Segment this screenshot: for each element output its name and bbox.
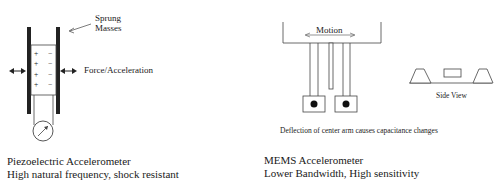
minus-sign: − <box>48 60 52 68</box>
force-label: Force/Acceleration <box>84 66 153 75</box>
plus-sign: + <box>34 60 38 68</box>
piezo-title: Piezoelectric Accelerometer <box>7 156 131 167</box>
sprung-label-line1: Sprung <box>95 14 121 23</box>
piezo-subtitle: High natural frequency, shock resistant <box>7 169 179 180</box>
minus-sign: − <box>48 50 52 58</box>
plus-sign: + <box>34 81 38 89</box>
minus-sign: − <box>48 81 52 89</box>
side-view-label: Side View <box>436 92 467 100</box>
minus-sign: − <box>48 71 52 79</box>
pointer-arrow-icon <box>69 24 91 33</box>
gauge-icon <box>33 121 53 141</box>
sprung-label-line2: Masses <box>95 24 122 33</box>
left-plate <box>27 27 31 114</box>
plus-sign: + <box>34 71 38 79</box>
mems-title: MEMS Accelerometer <box>264 155 363 166</box>
right-plate <box>56 27 60 114</box>
deflection-caption: Deflection of center arm causes capacita… <box>280 127 438 135</box>
center-arm <box>329 43 333 89</box>
plus-sign: + <box>34 50 38 58</box>
mems-subtitle: Lower Bandwidth, High sensitivity <box>264 168 419 179</box>
side-view-drawing <box>409 69 493 83</box>
motion-label: Motion <box>316 26 343 35</box>
